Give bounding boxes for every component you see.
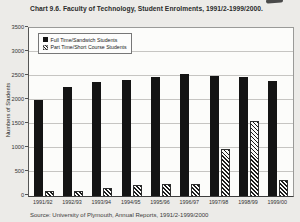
bar-solid [151, 77, 160, 196]
bar-hatched [162, 184, 171, 196]
bar-hatched [133, 185, 142, 196]
x-tick-label: 1999/00 [263, 199, 292, 205]
bar-hatched [45, 191, 54, 196]
x-tick-label: 1996/97 [175, 199, 204, 205]
legend: Full Time/Sandwich StudentsPart Time/Sho… [38, 33, 132, 54]
scan-artifact-mark [266, 0, 283, 4]
y-tick-label: 1000 [12, 144, 24, 151]
bar-hatched [279, 180, 288, 196]
bar-group [146, 28, 175, 196]
y-tick-label: 1500 [12, 120, 24, 127]
bar-solid [34, 100, 43, 196]
y-tick-label: 2500 [12, 72, 24, 79]
bar-hatched [191, 184, 200, 196]
bar-solid [180, 74, 189, 196]
bar-group [205, 28, 234, 196]
bar-solid [63, 87, 72, 196]
bar-solid [122, 80, 131, 196]
legend-item: Full Time/Sandwich Students [43, 37, 127, 43]
y-tick-labels: 0500100015002000250030003500 [0, 27, 25, 195]
legend-swatch-solid [43, 37, 48, 42]
x-tick-label: 1998/99 [233, 199, 262, 205]
scanned-report-page: Chart 9.6. Faculty of Technology, Studen… [0, 0, 300, 222]
bar-hatched [250, 121, 259, 196]
chart-title: Chart 9.6. Faculty of Technology, Studen… [30, 5, 296, 12]
y-tick-label: 0 [21, 192, 24, 199]
y-tick-label: 3000 [12, 48, 24, 55]
legend-label: Full Time/Sandwich Students [51, 37, 118, 43]
bar-group [176, 28, 205, 196]
y-tick-label: 3500 [12, 24, 24, 31]
bar-hatched [221, 149, 230, 196]
source-note: Source: University of Plymouth, Annual R… [30, 212, 208, 218]
x-tick-label: 1993/94 [87, 199, 116, 205]
x-tick-label: 1991/92 [28, 199, 57, 205]
bar-hatched [103, 188, 112, 196]
x-tick-label: 1997/98 [204, 199, 233, 205]
legend-label: Part Time/Short Course Students [51, 44, 127, 50]
bar-group [264, 28, 293, 196]
x-tick-label: 1994/95 [116, 199, 145, 205]
x-tick-label: 1992/93 [57, 199, 86, 205]
bar-solid [210, 76, 219, 196]
plot-area: Full Time/Sandwich StudentsPart Time/Sho… [28, 27, 294, 197]
bar-solid [239, 77, 248, 196]
bar-hatched [74, 191, 83, 196]
bar-group [234, 28, 263, 196]
y-tick-label: 500 [15, 168, 24, 175]
y-tick-label: 2000 [12, 96, 24, 103]
bar-solid [92, 82, 101, 196]
x-axis-labels: 1991/921992/931993/941994/951995/961996/… [28, 199, 292, 205]
bar-solid [268, 81, 277, 196]
x-tick-label: 1995/96 [145, 199, 174, 205]
legend-item: Part Time/Short Course Students [43, 44, 127, 50]
legend-swatch-hatched [43, 45, 48, 50]
